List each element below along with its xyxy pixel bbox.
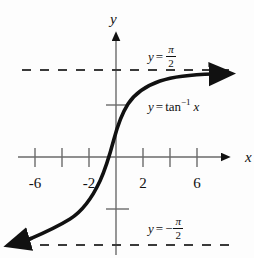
curve-equation-label: y = tan −1 x (148, 100, 199, 113)
asymptote-bottom-denominator: 2 (173, 229, 183, 241)
curve-lhs: y (148, 100, 154, 113)
x-tick-label-2: 2 (136, 176, 150, 191)
asymptote-bottom-equals: = (156, 222, 163, 235)
asymptote-bottom-sign: − (165, 222, 172, 235)
asymptote-bottom-fraction: π 2 (173, 216, 183, 241)
figure-canvas: y x -6 -2 2 6 y = π 2 y = − π 2 y = tan … (0, 0, 254, 258)
y-axis-label: y (110, 12, 117, 27)
x-tick-label-minus6: -6 (24, 176, 46, 191)
asymptote-top-fraction: π 2 (166, 44, 176, 69)
x-tick-label-minus2: -2 (78, 176, 100, 191)
graph-svg (0, 0, 254, 258)
asymptote-bottom-lhs: y (148, 222, 154, 235)
curve-exponent: −1 (181, 98, 191, 107)
curve-equals: = (156, 100, 163, 113)
x-tick-label-6: 6 (190, 176, 204, 191)
asymptote-top-equals: = (156, 50, 163, 63)
curve-argument: x (194, 100, 200, 113)
curve-function-name: tan (165, 100, 181, 113)
asymptote-bottom-label: y = − π 2 (148, 216, 184, 241)
asymptote-top-numerator: π (166, 44, 176, 56)
asymptote-top-lhs: y (148, 50, 154, 63)
asymptote-top-label: y = π 2 (148, 44, 177, 69)
asymptote-bottom-numerator: π (173, 216, 183, 228)
asymptote-top-denominator: 2 (166, 57, 176, 69)
x-axis-label: x (245, 150, 252, 165)
